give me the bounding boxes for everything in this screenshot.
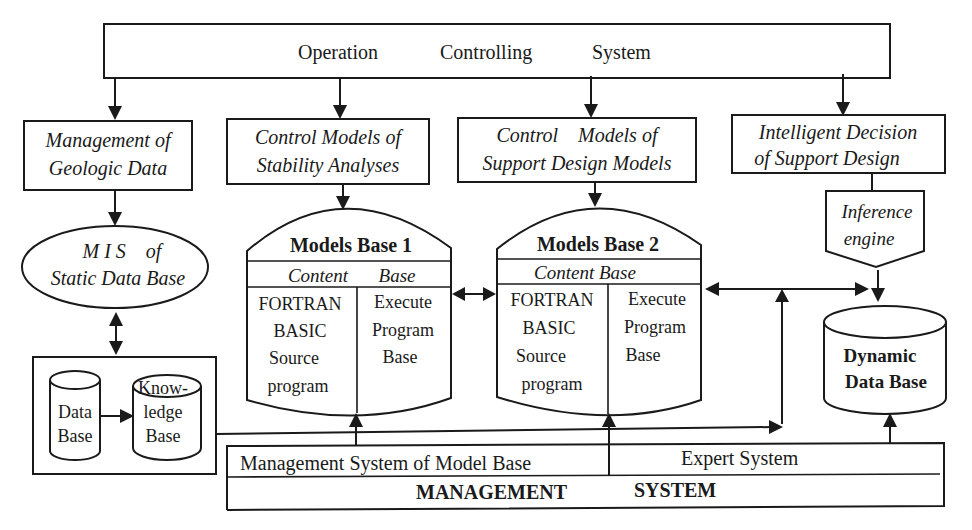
inference-engine-label: engine	[844, 228, 895, 249]
operation-controlling-system-box: Operation Controlling System	[104, 24, 890, 78]
arrow-down-icon	[108, 212, 122, 226]
knowledge-base-label: Base	[146, 426, 181, 446]
source-program-line: BASIC	[273, 321, 326, 341]
module-label-line: Geologic Data	[49, 157, 167, 180]
top-down-arrows	[108, 74, 850, 120]
mis-label-line: Static Data Base	[51, 267, 186, 289]
source-program-line: BASIC	[522, 318, 575, 338]
inference-engine-label: Inference	[840, 201, 912, 222]
module-label-line: Intelligent Decision	[758, 121, 917, 144]
source-program-line: program	[522, 374, 583, 394]
arrow-down-icon	[584, 104, 598, 118]
models-base-1-title: Models Base 1	[290, 234, 412, 256]
knowledge-base-cylinder: Know- ledge Base	[133, 375, 201, 460]
module-intelligent-decision: Intelligent Decision of Support Design	[732, 115, 945, 173]
execute-program-line: Execute	[628, 289, 686, 309]
data-base-label: Data	[58, 402, 92, 422]
static-data-knowledge-box: Data Base Know- ledge Base	[33, 357, 216, 474]
dynamic-data-base-cylinder: Dynamic Data Base	[824, 306, 946, 414]
execute-program-line: Base	[383, 347, 418, 367]
arrow-down-icon	[108, 106, 122, 120]
arrow-down-icon	[333, 105, 347, 119]
arrow-left-icon	[705, 282, 719, 296]
source-program-line: FORTRAN	[259, 294, 342, 314]
top-word-3: System	[592, 41, 651, 64]
module-label-line: Management of	[45, 129, 173, 152]
top-word-2: Controlling	[440, 41, 532, 64]
top-word-1: Operation	[298, 41, 378, 64]
expert-to-dynamic-db-arrow	[883, 413, 897, 443]
management-system-of-model-base-label: Management System of Model Base	[240, 452, 531, 475]
dynamic-db-label: Data Base	[845, 371, 927, 392]
expert-system-label: Expert System	[681, 447, 799, 470]
knowledge-to-expert-line	[216, 420, 783, 434]
content-base-label: Content Base	[534, 262, 636, 283]
module-label-line: of Support Design	[754, 147, 900, 170]
mis-to-static-bidirectional-arrow	[109, 312, 123, 355]
arrow-up-icon	[775, 289, 789, 302]
module-label-line: Support Design Models	[483, 152, 672, 175]
management-title-word: MANAGEMENT	[416, 481, 568, 503]
module-label-line: Stability Analyses	[257, 154, 400, 177]
arrow-left-icon	[452, 287, 465, 301]
support-to-models-base-2-arrow	[588, 182, 602, 207]
models-base-1-2-bidirectional-arrow	[452, 287, 496, 301]
models-base-2-title: Models Base 2	[537, 233, 659, 255]
module-management-of-geologic-data: Management of Geologic Data	[24, 121, 192, 190]
execute-program-line: Program	[624, 317, 686, 337]
module-control-models-support-design: Control Models of Support Design Models	[458, 118, 696, 182]
arrow-up-icon	[109, 312, 123, 326]
execute-program-line: Program	[372, 320, 434, 340]
arrow-down-icon	[588, 193, 602, 207]
content-base-label: Base	[379, 265, 416, 286]
source-program-line: FORTRAN	[511, 290, 594, 310]
management-title-word: SYSTEM	[634, 479, 716, 501]
source-program-line: program	[268, 376, 329, 396]
models-base-2: Models Base 2 Content Base FORTRAN BASIC…	[497, 208, 701, 415]
stability-to-models-base-1-arrow	[336, 184, 350, 210]
mis-label-line: M I S of	[82, 240, 164, 263]
mis-static-data-base-ellipse: M I S of Static Data Base	[22, 226, 208, 308]
module-label-line: Control Models of	[255, 126, 403, 149]
inference-engine: Inference engine	[826, 191, 924, 267]
arrow-down-icon	[871, 288, 885, 302]
arrow-right-icon	[769, 420, 783, 434]
dynamic-db-label: Dynamic	[844, 345, 917, 366]
arrow-down-icon	[109, 341, 123, 355]
arrow-right-icon	[483, 287, 496, 301]
arrow-down-icon	[836, 102, 850, 116]
mgmt-to-models-base-1-arrow	[349, 413, 363, 446]
data-base-cylinder: Data Base	[50, 371, 100, 460]
inference-to-dynamic-db-arrow	[871, 270, 885, 302]
knowledge-base-label: Know-	[138, 378, 188, 398]
arrow-up-icon	[883, 413, 897, 427]
system-architecture-diagram: Operation Controlling System Management …	[0, 0, 972, 530]
module-label-line: Control Models of	[497, 124, 660, 147]
source-program-line: Source	[269, 348, 319, 368]
geologic-to-mis-arrow	[108, 190, 122, 226]
knowledge-base-label: ledge	[144, 402, 183, 422]
data-base-label: Base	[58, 426, 93, 446]
source-program-line: Source	[516, 346, 566, 366]
execute-program-line: Base	[626, 345, 661, 365]
arrow-right-icon	[855, 282, 869, 296]
execute-program-line: Execute	[374, 292, 432, 312]
models-base-1: Models Base 1 Content Base FORTRAN BASIC…	[247, 209, 451, 416]
content-base-label: Content	[288, 265, 349, 286]
management-system-box: Management System of Model Base Expert S…	[227, 443, 944, 510]
module-control-models-stability: Control Models of Stability Analyses	[227, 119, 429, 184]
